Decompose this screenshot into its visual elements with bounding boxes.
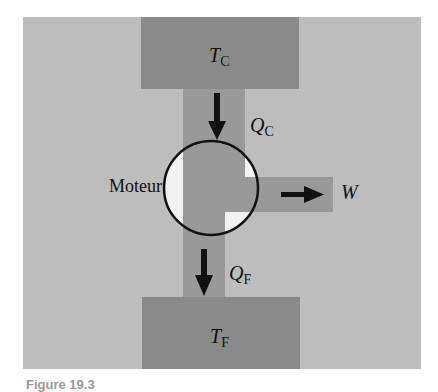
cold-reservoir-label: TF: [210, 325, 229, 348]
heat-in-label: QC: [250, 114, 274, 137]
heat-out-label: QF: [229, 262, 251, 285]
hot-reservoir-label: TC: [209, 44, 229, 67]
engine-label: Moteur: [109, 176, 162, 197]
figure-caption: Figure 19.3: [26, 377, 95, 392]
work-label: W: [341, 181, 358, 204]
